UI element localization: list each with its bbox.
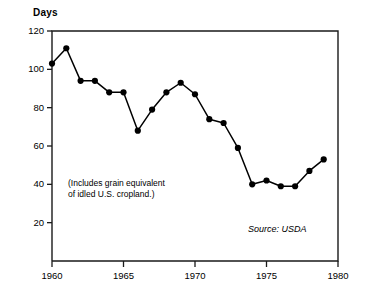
y-tick-label: 100 <box>0 63 44 74</box>
plot-area <box>0 0 366 295</box>
y-tick-label: 40 <box>0 178 44 189</box>
data-point-marker <box>249 181 255 187</box>
data-point-marker <box>221 120 227 126</box>
y-tick-label: 120 <box>0 25 44 36</box>
data-point-marker <box>92 78 98 84</box>
data-point-marker <box>278 183 284 189</box>
data-point-marker <box>149 106 155 112</box>
x-tick-label: 1980 <box>313 270 363 281</box>
data-point-marker <box>306 168 312 174</box>
data-point-marker <box>321 156 327 162</box>
data-point-marker <box>106 89 112 95</box>
y-axis-title: Days <box>33 7 58 18</box>
data-point-marker <box>120 89 126 95</box>
includes-note-line2: of idled U.S. cropland.) <box>68 189 165 200</box>
x-tick-label: 1975 <box>242 270 292 281</box>
includes-note-line1: (Includes grain equivalent <box>68 178 165 189</box>
x-tick-marks <box>52 261 338 267</box>
data-point-marker <box>135 128 141 134</box>
source-note: Source: USDA <box>248 224 307 234</box>
y-tick-label: 60 <box>0 140 44 151</box>
data-point-marker <box>235 145 241 151</box>
y-tick-label: 80 <box>0 102 44 113</box>
x-tick-label: 1965 <box>99 270 149 281</box>
data-point-marker <box>78 78 84 84</box>
data-point-marker <box>192 91 198 97</box>
data-point-marker <box>178 80 184 86</box>
data-point-marker <box>206 116 212 122</box>
data-point-marker <box>292 183 298 189</box>
x-tick-label: 1960 <box>27 270 77 281</box>
y-tick-label: 20 <box>0 217 44 228</box>
data-point-marker <box>263 177 269 183</box>
data-line <box>52 48 324 186</box>
includes-note: (Includes grain equivalent of idled U.S.… <box>68 178 165 201</box>
data-point-markers <box>49 45 327 189</box>
y-tick-marks <box>47 31 52 223</box>
data-point-marker <box>163 89 169 95</box>
data-point-marker <box>63 45 69 51</box>
chart-figure: Days 20406080100120 19601965197019751980… <box>0 0 366 295</box>
data-point-marker <box>49 60 55 66</box>
x-tick-label: 1970 <box>170 270 220 281</box>
